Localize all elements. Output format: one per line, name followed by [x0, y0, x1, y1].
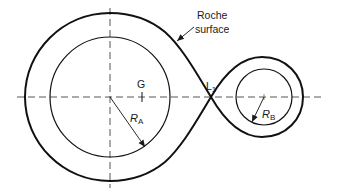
radius-a-letter: R [130, 112, 138, 124]
lagrange-point-label: L1 [206, 80, 217, 94]
radius-b-label: RB [262, 108, 275, 122]
radius-b-letter: R [262, 108, 270, 120]
roche-surface-lobe-b [211, 57, 303, 137]
radius-a-label: RA [130, 112, 144, 126]
roche-diagram: Roche surface G L1 RA RB [0, 0, 337, 196]
roche-label-line1: Roche [197, 9, 228, 21]
radius-a-subscript: A [138, 117, 144, 126]
radius-b-subscript: B [270, 113, 275, 122]
center-of-mass-label: G [137, 78, 145, 90]
lagrange-point-subscript: 1 [212, 85, 217, 94]
roche-label-line2: surface [195, 23, 230, 35]
roche-surface-pointer [177, 27, 194, 41]
